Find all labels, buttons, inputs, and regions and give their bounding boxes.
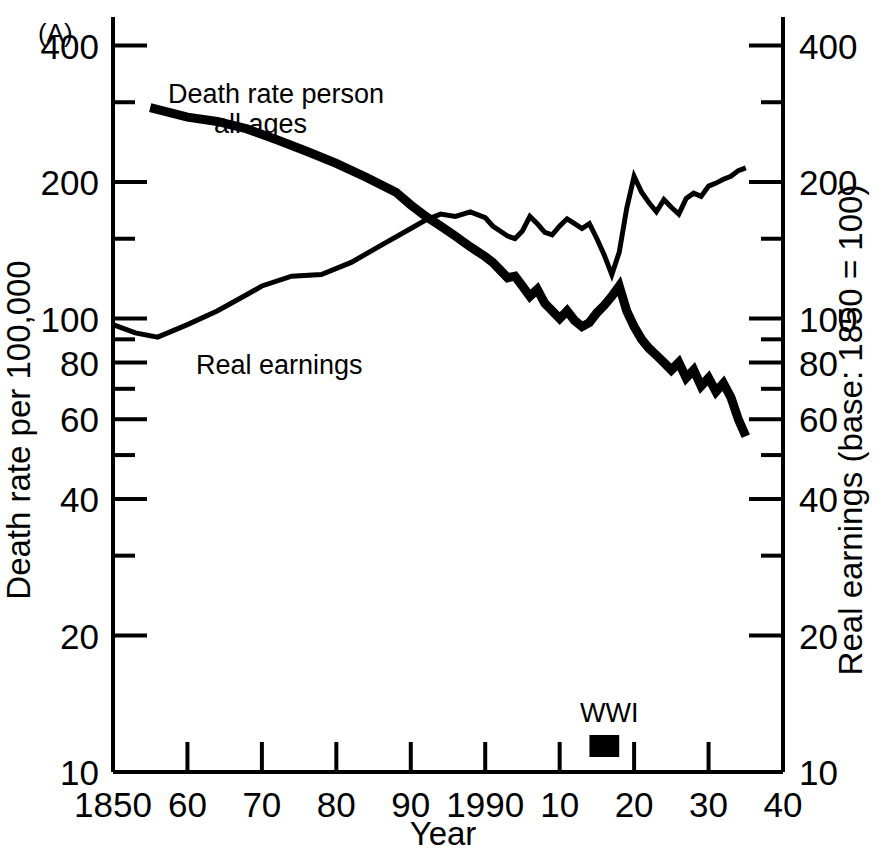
wwi-marker xyxy=(589,735,619,757)
chart-figure: 4002001008060402010 4002001008060402010 … xyxy=(0,0,886,859)
y-left-tick-label: 200 xyxy=(41,163,99,202)
death-rate-series-label-line1: Death rate person xyxy=(168,79,384,109)
y-right-axis-title: Real earnings (base: 1850 = 100) xyxy=(832,185,869,676)
y-right-tick-label: 10 xyxy=(799,753,838,792)
x-axis-title: Year xyxy=(410,815,477,852)
real-earnings-series-label: Real earnings xyxy=(196,350,363,380)
y-left-tick-label: 80 xyxy=(60,344,99,383)
x-tick-label: 30 xyxy=(689,785,728,824)
x-tick-label: 1850 xyxy=(74,785,152,824)
y-right-tick-label: 400 xyxy=(799,27,857,66)
wwi-bar xyxy=(589,735,619,757)
x-tick-label: 70 xyxy=(242,785,281,824)
x-tick-label: 80 xyxy=(317,785,356,824)
wwi-label: WWI xyxy=(580,698,638,728)
x-tick-label: 60 xyxy=(168,785,207,824)
panel-label: (A) xyxy=(38,18,73,48)
y-left-tick-label: 100 xyxy=(41,300,99,339)
y-left-axis-title: Death rate per 100,000 xyxy=(0,260,37,599)
death-rate-real-earnings-chart: 4002001008060402010 4002001008060402010 … xyxy=(0,0,886,859)
x-tick-label: 40 xyxy=(764,785,803,824)
x-tick-label: 10 xyxy=(540,785,579,824)
x-tick-label: 20 xyxy=(615,785,654,824)
death-rate-series-label-line2: all ages xyxy=(214,109,307,139)
y-left-tick-label: 20 xyxy=(60,617,99,656)
chart-background xyxy=(0,0,886,859)
y-left-tick-label: 60 xyxy=(60,400,99,439)
y-left-tick-label: 40 xyxy=(60,480,99,519)
